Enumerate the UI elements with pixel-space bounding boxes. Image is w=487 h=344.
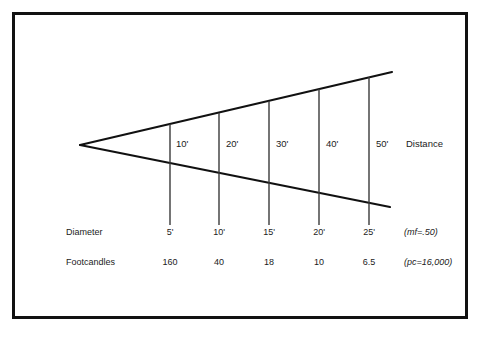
distance-label-30: 30' [276, 139, 288, 149]
distance-label-50: 50' [376, 139, 388, 149]
diameter-value-4: 20' [304, 228, 334, 237]
diameter-value-1: 5' [155, 228, 185, 237]
note-peak-candlepower: (pc=16,000) [404, 258, 452, 267]
distance-label-10: 10' [176, 139, 188, 149]
distance-axis-title: Distance [406, 139, 443, 149]
row-label-diameter: Diameter [66, 228, 103, 237]
footcandles-value-1: 160 [155, 258, 185, 267]
cone-lower-edge [80, 145, 390, 207]
beam-spread-diagram: 10' 20' 30' 40' 50' Distance Diameter 5'… [0, 0, 487, 344]
footcandles-value-5: 6.5 [354, 258, 384, 267]
diameter-value-5: 25' [354, 228, 384, 237]
distance-label-40: 40' [326, 139, 338, 149]
cone-graphic [0, 0, 487, 344]
cone-upper-edge [80, 72, 392, 145]
footcandles-value-3: 18 [254, 258, 284, 267]
distance-label-20: 20' [226, 139, 238, 149]
note-maintenance-factor: (mf=.50) [404, 228, 438, 237]
row-label-footcandles: Footcandles [66, 258, 115, 267]
footcandles-value-2: 40 [204, 258, 234, 267]
footcandles-value-4: 10 [304, 258, 334, 267]
diameter-value-3: 15' [254, 228, 284, 237]
diameter-value-2: 10' [204, 228, 234, 237]
